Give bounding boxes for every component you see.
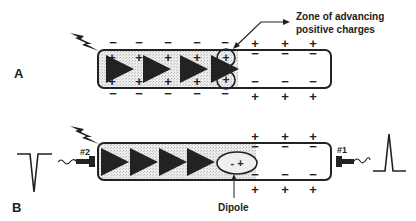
svg-text:+: +: [164, 50, 172, 65]
svg-text:+: +: [108, 50, 116, 65]
svg-text:−: −: [309, 74, 317, 89]
svg-text:−: −: [281, 74, 289, 89]
svg-text:−: −: [309, 167, 317, 182]
svg-text:−: −: [109, 35, 117, 50]
svg-text:+: +: [135, 50, 143, 65]
svg-text:−: −: [135, 86, 143, 101]
zone-callout-arrow: [235, 22, 288, 47]
svg-text:+: +: [309, 182, 317, 197]
panel-b-label: B: [12, 200, 21, 215]
svg-text:−: −: [309, 139, 317, 154]
svg-text:+: +: [281, 182, 289, 197]
diagram-canvas: A −−−−− ++++ ++++ −−−−− + +: [0, 0, 416, 221]
dipole-charges: - +: [230, 157, 243, 169]
svg-text:+: +: [309, 89, 317, 104]
svg-text:+: +: [281, 89, 289, 104]
svg-text:−: −: [251, 167, 259, 182]
svg-text:+: +: [251, 182, 259, 197]
svg-text:−: −: [251, 139, 259, 154]
svg-text:−: −: [193, 86, 201, 101]
svg-text:−: −: [251, 46, 259, 61]
electrode-1: #1: [336, 145, 370, 167]
svg-text:−: −: [221, 35, 229, 50]
svg-text:−: −: [135, 35, 143, 50]
electrode-2-label: #2: [80, 147, 90, 157]
charges-resting: +++ −−− −−− +++: [251, 129, 317, 197]
positive-waveform: [373, 134, 406, 171]
svg-text:−: −: [281, 139, 289, 154]
svg-text:+: +: [193, 50, 201, 65]
svg-text:−: −: [309, 46, 317, 61]
zone-label-line1: Zone of advancing: [296, 11, 384, 22]
svg-text:+: +: [222, 73, 229, 87]
svg-text:−: −: [281, 46, 289, 61]
panel-a-label: A: [14, 66, 24, 81]
svg-text:−: −: [164, 35, 172, 50]
svg-text:−: −: [251, 74, 259, 89]
electrode-2: #2: [58, 147, 95, 167]
panel-a: A −−−−− ++++ ++++ −−−−− + +: [14, 11, 384, 104]
electrode-1-label: #1: [337, 145, 347, 155]
charges-resting: +++ −−− −−− +++: [251, 36, 317, 104]
stimulus-lightning-icon: [70, 126, 99, 144]
svg-text:−: −: [281, 167, 289, 182]
dipole-label: Dipole: [218, 202, 249, 213]
svg-text:+: +: [222, 51, 229, 65]
svg-text:−: −: [109, 86, 117, 101]
stimulus-lightning-icon: [70, 33, 99, 51]
zone-label-line2: positive charges: [296, 24, 375, 35]
negative-waveform: [17, 154, 52, 192]
svg-text:−: −: [193, 35, 201, 50]
svg-text:+: +: [251, 89, 259, 104]
svg-text:−: −: [164, 86, 172, 101]
panel-b: B #2 - + Dipole +++ −−−: [12, 126, 406, 215]
